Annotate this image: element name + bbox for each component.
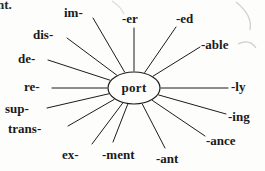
affix-re: re- <box>24 80 40 93</box>
spoke-line-able <box>153 47 200 76</box>
affix-de: de- <box>18 52 35 65</box>
spoke-line-ant <box>142 104 165 148</box>
affix-dis: dis- <box>33 28 53 41</box>
affix-ing: -ing <box>228 110 250 123</box>
affix-trans: trans- <box>8 122 41 135</box>
spoke-line-ed <box>145 27 176 72</box>
word-web-page: nt. im--er-ed-able-ly-ing-ance-ant-mente… <box>0 0 265 171</box>
affix-er: -er <box>122 12 138 25</box>
spoke-line-trans <box>68 99 114 126</box>
affix-ly: -ly <box>231 80 245 93</box>
spoke-line-ment <box>113 105 128 142</box>
affix-ant: -ant <box>156 152 178 165</box>
scan-artifact-curve-top <box>236 2 250 30</box>
center-word-port: port <box>121 80 146 96</box>
affix-ment: -ment <box>102 148 135 161</box>
affix-able: -able <box>201 38 228 51</box>
spoke-line-sup <box>47 94 109 108</box>
affix-ex: ex- <box>62 148 79 161</box>
affix-ed: -ed <box>176 12 193 25</box>
spoke-line-dis <box>67 38 117 75</box>
spoke-line-im <box>93 18 125 72</box>
affix-im: im- <box>64 6 83 19</box>
affix-sup: sup- <box>5 102 29 115</box>
affix-ance: -ance <box>206 134 236 147</box>
scan-artifact-curve-right <box>238 42 256 48</box>
